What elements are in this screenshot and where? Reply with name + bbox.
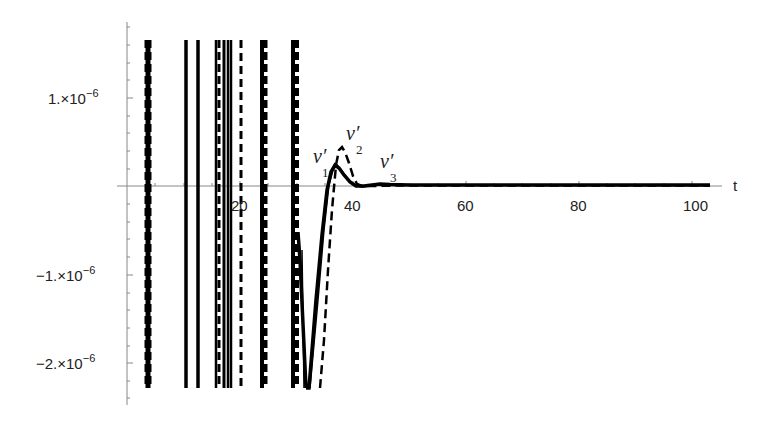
chart: 1.×10−6 −1.×10−6 −2.×10−6 20 40 60 80 10…	[0, 0, 782, 425]
x-tick-100: 100	[683, 197, 708, 214]
label-nu1: ν′	[313, 145, 327, 167]
series-nu3	[302, 165, 710, 388]
y-tick-labels: 1.×10−6 −1.×10−6 −2.×10−6	[36, 87, 99, 372]
y-tick-1e-6: 1.×10−6	[48, 87, 99, 107]
x-tick-60: 60	[457, 197, 474, 214]
label-nu2-sub: 2	[356, 142, 363, 157]
x-axis-label: t	[733, 177, 738, 194]
label-nu3: ν′	[380, 150, 394, 172]
series-labels: ν′ 1 ν′ 2 ν′ 3	[313, 122, 397, 185]
x-tick-20: 20	[231, 197, 248, 214]
y-tick-neg1e-6: −1.×10−6	[36, 264, 95, 284]
y-axis	[127, 22, 133, 405]
x-tick-40: 40	[344, 197, 361, 214]
x-tick-labels: 20 40 60 80 100 t	[231, 177, 738, 214]
x-tick-80: 80	[570, 197, 587, 214]
label-nu1-sub: 1	[322, 165, 329, 180]
y-tick-neg2e-6: −2.×10−6	[36, 352, 95, 372]
label-nu3-sub: 3	[390, 170, 397, 185]
oscillation-bands	[148, 40, 297, 388]
label-nu2: ν′	[346, 122, 360, 144]
